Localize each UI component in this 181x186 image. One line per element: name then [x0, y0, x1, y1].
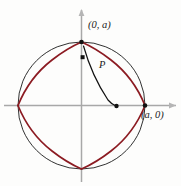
label-moving-point-p: P [99, 60, 105, 71]
top-point-marker [79, 40, 84, 45]
label-right-point: (a, 0) [141, 110, 164, 121]
x-axis-right-arrow-icon [169, 103, 176, 109]
axes-group [4, 9, 176, 182]
y-axis-top-arrow-icon [79, 9, 85, 16]
astroid-arc-q3 [18, 106, 82, 170]
astroid-arc-q4 [82, 106, 146, 170]
astroid-figure: (0, a) (a, 0) P [0, 0, 181, 186]
astroid-arc-q1 [82, 42, 146, 106]
segment-end-marker [114, 104, 118, 108]
astroid-arc-q2 [18, 42, 82, 106]
generating-segment-curve [84, 46, 117, 106]
label-top-point: (0, a) [88, 20, 111, 31]
right-point-marker [143, 103, 148, 108]
upper-square-marker [81, 55, 85, 59]
